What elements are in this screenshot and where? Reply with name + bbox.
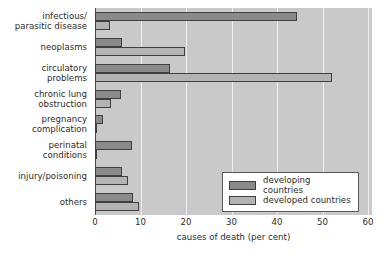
legend-item-developing: developing countries — [229, 178, 352, 192]
bar-developing-5 — [95, 141, 132, 150]
legend: developing countriesdeveloped countries — [222, 172, 359, 212]
x-axis-ticks: 0102030405060 — [95, 215, 372, 231]
bar-developed-5 — [95, 150, 97, 159]
bar-developing-2 — [95, 64, 170, 73]
bar-chart: infectious/ parasitic diseaseneoplasmsci… — [0, 0, 388, 259]
category-label-2: circulatory problems — [0, 63, 91, 83]
bar-developed-4 — [95, 124, 97, 133]
bar-developed-3 — [95, 99, 111, 108]
category-label-4: pregnancy complication — [0, 114, 91, 134]
bar-developing-6 — [95, 167, 122, 176]
x-tick-50: 50 — [317, 217, 328, 227]
bar-developing-3 — [95, 90, 121, 99]
category-label-7: others — [0, 197, 91, 207]
legend-item-developed: developed countries — [229, 193, 352, 207]
x-tick-30: 30 — [226, 217, 237, 227]
bar-developing-0 — [95, 12, 297, 21]
category-label-3: chronic lung obstruction — [0, 89, 91, 109]
legend-label-developed: developed countries — [263, 195, 351, 205]
x-axis-title: causes of death (per cent) — [95, 232, 372, 242]
legend-label-developing: developing countries — [263, 175, 352, 195]
gridline-20 — [186, 8, 187, 215]
category-label-0: infectious/ parasitic disease — [0, 11, 91, 31]
legend-swatch-developed — [229, 196, 256, 205]
x-tick-60: 60 — [363, 217, 374, 227]
x-tick-0: 0 — [92, 217, 97, 227]
bar-developed-7 — [95, 202, 139, 211]
bar-developed-1 — [95, 47, 185, 56]
category-label-1: neoplasms — [0, 42, 91, 52]
bar-developing-4 — [95, 115, 103, 124]
x-tick-10: 10 — [135, 217, 146, 227]
x-axis-title-main: causes of death — [177, 232, 245, 242]
category-label-5: perinatal conditions — [0, 140, 91, 160]
bar-developing-7 — [95, 193, 133, 202]
gridline-10 — [141, 8, 142, 215]
x-tick-40: 40 — [272, 217, 283, 227]
bar-developed-2 — [95, 73, 332, 82]
category-label-6: injury/poisoning — [0, 171, 91, 181]
category-axis-labels: infectious/ parasitic diseaseneoplasmsci… — [0, 8, 91, 215]
bar-developed-6 — [95, 176, 128, 185]
x-axis-title-unit: (per cent) — [248, 232, 291, 242]
x-tick-20: 20 — [181, 217, 192, 227]
legend-swatch-developing — [229, 181, 256, 190]
bar-developing-1 — [95, 38, 122, 47]
gridline-60 — [368, 8, 369, 215]
bar-developed-0 — [95, 21, 110, 30]
